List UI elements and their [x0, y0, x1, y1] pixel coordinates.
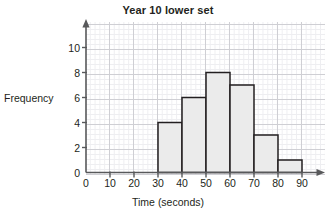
x-tick-label: 20: [128, 177, 140, 189]
x-tick-label: 0: [83, 177, 89, 189]
x-tick-label: 50: [200, 177, 212, 189]
x-tick-label: 90: [296, 177, 308, 189]
histogram-bar: [254, 135, 278, 173]
histogram-bar: [206, 73, 230, 173]
plot-area: [0, 0, 336, 215]
y-tick-label: 6: [58, 92, 80, 104]
x-tick-label: 10: [104, 177, 116, 189]
y-tick-label: 4: [58, 117, 80, 129]
histogram-bar: [158, 123, 182, 173]
bars-group: [158, 73, 302, 173]
histogram-bar: [182, 98, 206, 173]
x-tick-label: 30: [152, 177, 164, 189]
x-tick-label: 40: [176, 177, 188, 189]
y-axis-title: Frequency: [4, 92, 54, 104]
y-tick-label: 8: [58, 67, 80, 79]
x-axis-title: Time (seconds): [0, 196, 336, 208]
x-axis-arrowhead: [317, 169, 326, 176]
x-tick-label: 60: [224, 177, 236, 189]
y-tick-label: 2: [58, 142, 80, 154]
x-tick-label: 80: [272, 177, 284, 189]
histogram-chart: Year 10 lower set 0246810 01020304050607…: [0, 0, 336, 215]
y-axis-arrowhead: [82, 19, 89, 28]
y-tick-label: 10: [58, 42, 80, 54]
histogram-bar: [278, 160, 302, 173]
y-tick-label: 0: [58, 167, 80, 179]
x-tick-label: 70: [248, 177, 260, 189]
histogram-bar: [230, 85, 254, 173]
